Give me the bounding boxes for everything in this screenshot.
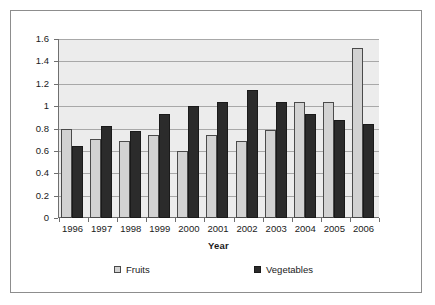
y-axis-tickmark — [54, 196, 58, 197]
y-axis-tick-label: 1 — [15, 100, 49, 112]
bar-fruits-2000 — [177, 151, 188, 218]
y-axis-tick-label: 1.6 — [15, 33, 49, 45]
x-axis-tickmark — [175, 218, 176, 222]
x-axis-tickmark — [321, 218, 322, 222]
bar-group — [350, 39, 379, 218]
y-axis-tickmark — [54, 106, 58, 107]
legend-item-vegetables: Vegetables — [254, 262, 313, 276]
legend-swatch-vegetables-icon — [254, 266, 261, 273]
x-axis-tick-label: 2006 — [346, 223, 380, 235]
y-axis-tickmark — [54, 218, 58, 219]
bar-group — [88, 39, 117, 218]
x-axis-tickmark — [59, 218, 60, 222]
y-axis-tick-label: 0.8 — [15, 123, 49, 135]
x-axis-tickmark — [350, 218, 351, 222]
bar-fruits-2004 — [294, 102, 305, 218]
bar-fruits-2006 — [352, 48, 363, 218]
y-axis-tick-label: 0.4 — [15, 167, 49, 179]
x-axis-tickmark — [263, 218, 264, 222]
bar-vegetables-2000 — [188, 106, 199, 218]
bar-fruits-1998 — [119, 141, 130, 218]
bar-fruits-1997 — [90, 139, 101, 218]
bars-layer — [59, 39, 379, 218]
y-axis-tickmark — [54, 151, 58, 152]
legend-swatch-fruits-icon — [114, 266, 121, 273]
bar-vegetables-2003 — [276, 102, 287, 218]
legend-label-vegetables: Vegetables — [266, 264, 313, 275]
chart-frame: Million Tonnes 00.20.40.60.811.21.41.6 1… — [10, 10, 422, 293]
bar-vegetables-1999 — [159, 114, 170, 218]
bar-vegetables-1998 — [130, 131, 141, 218]
bar-fruits-2001 — [206, 135, 217, 218]
chart-legend: Fruits Vegetables — [58, 262, 379, 278]
bar-group — [263, 39, 292, 218]
bar-group — [146, 39, 175, 218]
bar-group — [292, 39, 321, 218]
bar-vegetables-2004 — [305, 114, 316, 218]
y-axis-tickmark — [54, 39, 58, 40]
x-axis-tickmark — [292, 218, 293, 222]
x-axis-tickmark — [234, 218, 235, 222]
bar-fruits-2003 — [265, 130, 276, 218]
y-axis-tick-label: 0 — [15, 212, 49, 224]
x-axis-tickmark — [379, 218, 380, 222]
legend-item-fruits: Fruits — [114, 262, 150, 276]
bar-group — [175, 39, 204, 218]
bar-group — [117, 39, 146, 218]
y-axis-tickmark — [54, 84, 58, 85]
bar-vegetables-2002 — [247, 90, 258, 218]
y-axis-tickmark — [54, 129, 58, 130]
bar-vegetables-1997 — [101, 126, 112, 218]
bar-vegetables-2005 — [334, 120, 345, 218]
bar-vegetables-2006 — [363, 124, 374, 218]
y-axis-tickmark — [54, 173, 58, 174]
x-axis-tickmark — [88, 218, 89, 222]
bar-group — [204, 39, 233, 218]
bar-group — [321, 39, 350, 218]
y-axis-tick-label: 1.2 — [15, 78, 49, 90]
bar-group — [234, 39, 263, 218]
bar-fruits-2005 — [323, 102, 334, 218]
bar-group — [59, 39, 88, 218]
bar-vegetables-2001 — [217, 102, 228, 218]
bar-fruits-1996 — [61, 129, 72, 219]
y-axis-tick-label: 0.2 — [15, 190, 49, 202]
legend-label-fruits: Fruits — [126, 264, 150, 275]
y-axis-tick-label: 0.6 — [15, 145, 49, 157]
bar-vegetables-1996 — [72, 146, 83, 218]
bar-fruits-1999 — [148, 135, 159, 218]
x-axis-tickmark — [117, 218, 118, 222]
y-axis-tick-label: 1.4 — [15, 55, 49, 67]
bar-fruits-2002 — [236, 141, 247, 218]
x-axis-title: Year — [58, 240, 379, 251]
x-axis-tickmark — [146, 218, 147, 222]
y-axis-tickmark — [54, 61, 58, 62]
x-axis-tickmark — [204, 218, 205, 222]
